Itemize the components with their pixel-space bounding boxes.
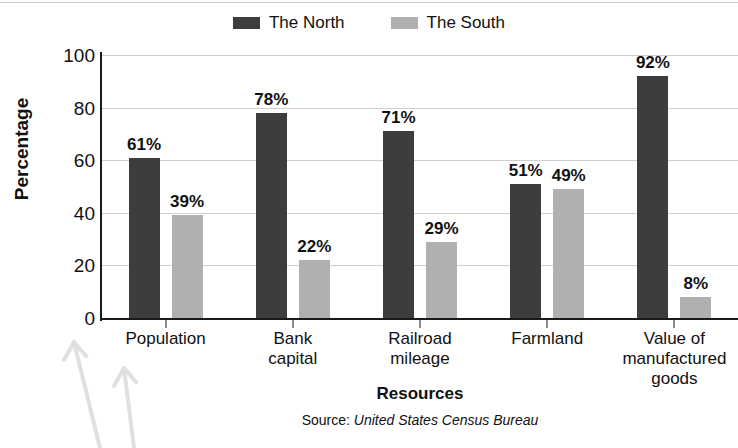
bar-south[interactable] — [553, 189, 584, 318]
legend-swatch-north — [233, 17, 260, 29]
x-axis-title: Resources — [102, 384, 738, 404]
x-tick-mark — [674, 320, 675, 328]
bar-group: 61%39%Population — [102, 55, 229, 318]
bar-north[interactable] — [383, 131, 414, 318]
bar-column: 39% — [172, 55, 203, 318]
legend-item-north: The North — [233, 14, 345, 31]
bar-group: 78%22%Bankcapital — [229, 55, 356, 318]
bar-north[interactable] — [637, 76, 668, 318]
x-tick-mark — [419, 320, 420, 328]
bar-south[interactable] — [299, 260, 330, 318]
bar-group: 92%8%Value ofmanufacturedgoods — [611, 55, 738, 318]
x-tick-label: Population — [98, 329, 233, 349]
y-tick-label: 0 — [0, 309, 95, 328]
x-tick-mark — [547, 320, 548, 328]
source-name: United States Census Bureau — [354, 412, 538, 428]
bar-value-label: 22% — [297, 238, 331, 255]
bar-value-label: 92% — [636, 54, 670, 71]
bar-group-bars: 71%29% — [356, 55, 483, 318]
bar-column: 51% — [510, 55, 541, 318]
y-tick-label: 80 — [0, 99, 95, 118]
y-tick-label: 60 — [0, 151, 95, 170]
bar-group-bars: 61%39% — [102, 55, 229, 318]
x-tick-mark — [292, 320, 293, 328]
y-axis-line — [100, 52, 102, 321]
y-tick-label: 100 — [0, 46, 95, 65]
y-tick-label: 40 — [0, 204, 95, 223]
plot-area: 61%39%Population78%22%Bankcapital71%29%R… — [102, 55, 738, 318]
bar-column: 29% — [426, 55, 457, 318]
y-tick-label: 20 — [0, 256, 95, 275]
bar-column: 78% — [256, 55, 287, 318]
bar-north[interactable] — [256, 113, 287, 318]
bar-value-label: 78% — [254, 91, 288, 108]
x-tick-label: Value ofmanufacturedgoods — [607, 329, 738, 389]
bar-column: 22% — [299, 55, 330, 318]
bar-value-label: 71% — [381, 109, 415, 126]
x-axis-line — [100, 318, 738, 320]
bar-value-label: 51% — [509, 162, 543, 179]
source-prefix: Source: — [302, 412, 354, 428]
bar-group: 71%29%Railroadmileage — [356, 55, 483, 318]
bar-group-bars: 78%22% — [229, 55, 356, 318]
bar-column: 61% — [129, 55, 160, 318]
page-top-rule — [0, 2, 738, 3]
bar-south[interactable] — [680, 297, 711, 318]
x-tick-label: Bankcapital — [225, 329, 360, 369]
legend-label-south: The South — [427, 14, 505, 31]
bar-south[interactable] — [426, 242, 457, 318]
x-tick-mark — [165, 320, 166, 328]
bar-south[interactable] — [172, 215, 203, 318]
bar-column: 49% — [553, 55, 584, 318]
bar-group-bars: 92%8% — [611, 55, 738, 318]
legend-label-north: The North — [269, 14, 345, 31]
legend-swatch-south — [391, 17, 418, 29]
bar-group: 51%49%Farmland — [484, 55, 611, 318]
chart-legend: The North The South — [0, 14, 738, 31]
legend-item-south: The South — [391, 14, 505, 31]
bar-column: 92% — [637, 55, 668, 318]
bar-value-label: 29% — [424, 220, 458, 237]
bar-column: 8% — [680, 55, 711, 318]
bar-value-label: 61% — [127, 136, 161, 153]
bar-value-label: 8% — [684, 275, 709, 292]
source-note: Source: United States Census Bureau — [102, 412, 738, 428]
x-tick-label: Railroadmileage — [352, 329, 487, 369]
bar-group-bars: 51%49% — [484, 55, 611, 318]
bar-value-label: 39% — [170, 193, 204, 210]
bar-north[interactable] — [129, 158, 160, 318]
bar-north[interactable] — [510, 184, 541, 318]
bar-value-label: 49% — [552, 167, 586, 184]
y-axis-ticks: 100806040200 — [0, 55, 95, 318]
x-tick-label: Farmland — [480, 329, 615, 349]
bar-column: 71% — [383, 55, 414, 318]
